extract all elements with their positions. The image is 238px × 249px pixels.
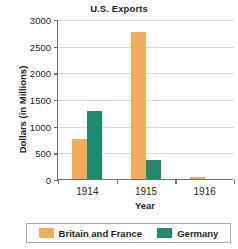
y-tick-label: 2000	[7, 68, 51, 79]
y-axis-label: Dollars (in Millions)	[17, 30, 28, 190]
x-tick-mark	[58, 179, 59, 184]
bar	[72, 139, 87, 179]
bar	[190, 177, 205, 179]
legend-label: Britain and France	[59, 228, 142, 239]
x-tick-label: 1916	[194, 186, 216, 197]
x-axis-label: Year	[57, 200, 233, 211]
y-tick-label: 500	[7, 148, 51, 159]
legend-swatch	[39, 228, 54, 238]
x-tick-mark	[175, 179, 176, 184]
x-tick-label: 1915	[135, 186, 157, 197]
y-tick-label: 1500	[7, 95, 51, 106]
legend-entry: Germany	[157, 228, 218, 239]
bar	[87, 111, 102, 179]
x-tick-mark	[234, 179, 235, 184]
y-tick-label: 1000	[7, 121, 51, 132]
legend-entry: Britain and France	[39, 228, 142, 239]
x-tick-mark	[117, 179, 118, 184]
bar-group	[58, 19, 117, 179]
plot-area: 050010001500200025003000 191419151916	[57, 20, 233, 180]
bar	[146, 160, 161, 179]
chart-title: U.S. Exports	[0, 3, 238, 14]
bar-group	[117, 19, 176, 179]
bar-group	[175, 19, 234, 179]
bar	[131, 32, 146, 179]
chart-legend: Britain and FranceGermany	[26, 223, 231, 243]
y-tick-label: 0	[7, 175, 51, 186]
y-tick-label: 2500	[7, 41, 51, 52]
y-tick-label: 3000	[7, 15, 51, 26]
legend-label: Germany	[177, 228, 218, 239]
chart-figure: U.S. Exports Dollars (in Millions) 05001…	[0, 0, 238, 249]
legend-swatch	[157, 228, 172, 238]
x-tick-label: 1914	[76, 186, 98, 197]
